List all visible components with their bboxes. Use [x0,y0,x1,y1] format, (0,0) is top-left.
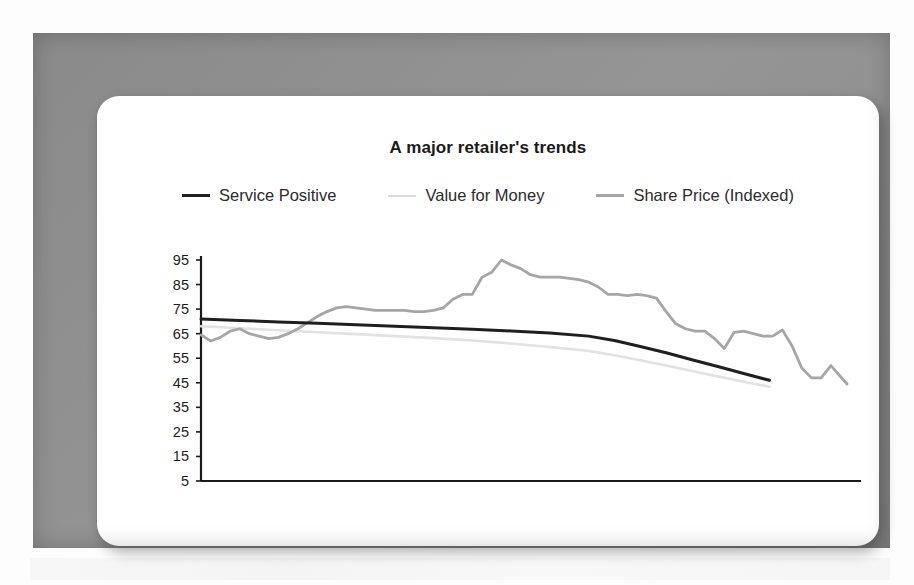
x-axis-tick-label: Sep 99 [765,489,811,492]
y-axis-tick-label: 45 [173,375,189,391]
line-chart-svg: 9585756555453525155Nov 95Mar 98Sep 99 [97,242,879,492]
page-frame: A major retailer's trends Service Positi… [33,33,890,548]
y-axis-tick-label: 75 [173,301,189,317]
legend-swatch-share-price [596,194,624,197]
y-axis-tick-label: 85 [173,277,189,293]
scan-artifact [30,558,890,580]
legend-item-share-price: Share Price (Indexed) [596,186,794,205]
y-axis-tick-label: 25 [173,424,189,440]
y-axis-tick-label: 5 [181,473,189,489]
x-axis-tick-label: Mar 98 [526,489,571,492]
legend-swatch-value-for-money [388,195,416,197]
y-axis-tick-label: 35 [173,399,189,415]
legend-label-value-for-money: Value for Money [425,186,544,205]
chart-legend: Service Positive Value for Money Share P… [97,186,879,205]
legend-label-share-price: Share Price (Indexed) [633,186,794,205]
page-root: A major retailer's trends Service Positi… [0,0,914,585]
chart-card: A major retailer's trends Service Positi… [97,96,879,546]
series-line-service-positive [201,319,769,380]
legend-swatch-service-positive [182,194,210,197]
legend-item-service-positive: Service Positive [182,186,336,205]
legend-item-value-for-money: Value for Money [388,186,544,205]
y-axis-tick-label: 65 [173,326,189,342]
series-line-share-price-indexed [201,260,847,384]
legend-label-service-positive: Service Positive [219,186,336,205]
y-axis-tick-label: 15 [173,448,189,464]
chart-title: A major retailer's trends [97,138,879,158]
x-axis-tick-label: Nov 95 [203,489,249,492]
y-axis-tick-label: 95 [173,252,189,268]
plot-area: 9585756555453525155Nov 95Mar 98Sep 99 [97,242,879,492]
series-line-value-for-money [201,326,769,386]
y-axis-tick-label: 55 [173,350,189,366]
